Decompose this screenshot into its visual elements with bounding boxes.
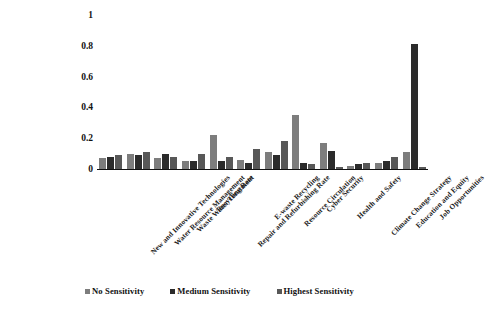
bar [265, 152, 272, 169]
legend-item[interactable]: No Sensitivity [85, 286, 144, 296]
bar [135, 155, 142, 169]
legend-label: Medium Sensitivity [177, 286, 250, 296]
x-axis-labels: New and Innovative TechnologiesWater Res… [97, 170, 428, 265]
legend-swatch-icon [85, 289, 90, 294]
y-axis-tick: 0 [61, 165, 93, 174]
bar [328, 151, 335, 169]
bar-group [345, 15, 373, 169]
bar-group [318, 15, 346, 169]
bar [226, 157, 233, 169]
bar [190, 161, 197, 169]
bar [99, 158, 106, 169]
bar [162, 154, 169, 169]
y-axis-tick: 0.8 [61, 42, 93, 51]
y-axis-tick: 0.2 [61, 134, 93, 143]
legend-swatch-icon [277, 289, 282, 294]
legend-swatch-icon [170, 289, 175, 294]
bar-group [262, 15, 290, 169]
bar [320, 143, 327, 169]
y-axis-tick: 0.6 [61, 73, 93, 82]
bar [127, 154, 134, 169]
bar-group [235, 15, 263, 169]
legend-item[interactable]: Medium Sensitivity [170, 286, 250, 296]
bar [253, 149, 260, 169]
bar [281, 141, 288, 169]
bar [403, 152, 410, 169]
legend-label: Highest Sensitivity [284, 286, 354, 296]
bar-group [400, 15, 428, 169]
bar [182, 161, 189, 169]
bar [210, 135, 217, 169]
bar [292, 115, 299, 169]
bar [237, 160, 244, 169]
bar [107, 157, 114, 169]
y-axis: 10.80.60.40.20 [55, 15, 93, 169]
bar [273, 155, 280, 169]
y-axis-tick: 0.4 [61, 103, 93, 112]
bar [154, 158, 161, 169]
bar-group [125, 15, 153, 169]
bar-group [290, 15, 318, 169]
legend-item[interactable]: Highest Sensitivity [277, 286, 354, 296]
y-axis-tick: 1 [61, 11, 93, 20]
bar [115, 155, 122, 169]
bar [383, 161, 390, 169]
bar [218, 161, 225, 169]
bar-group [152, 15, 180, 169]
bar [143, 152, 150, 169]
bar [411, 44, 418, 169]
bar [198, 154, 205, 169]
chart-legend: No SensitivityMedium SensitivityHighest … [0, 286, 439, 296]
bar [391, 157, 398, 169]
bar-group [180, 15, 208, 169]
bar-group [207, 15, 235, 169]
bar-group [373, 15, 401, 169]
plot-area [97, 15, 428, 169]
bar-groups [97, 15, 428, 169]
bar [170, 157, 177, 169]
legend-label: No Sensitivity [92, 286, 144, 296]
bar-group [97, 15, 125, 169]
